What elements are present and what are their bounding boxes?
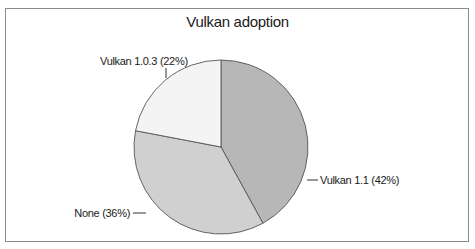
label-none: None (36%) xyxy=(74,207,130,219)
pie-slices xyxy=(134,60,308,234)
label-vulkan-1-0-3: Vulkan 1.0.3 (22%) xyxy=(100,55,188,67)
label-vulkan-1-1: Vulkan 1.1 (42%) xyxy=(320,174,399,186)
pie-chart: Vulkan 1.1 (42%) None (36%) Vulkan 1.0.3… xyxy=(0,0,475,249)
